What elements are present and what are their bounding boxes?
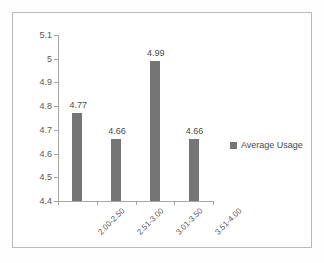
y-axis-tick <box>54 35 58 36</box>
legend-swatch-icon <box>230 142 237 149</box>
bar-data-label: 4.66 <box>108 127 126 136</box>
x-axis-tick <box>174 201 175 205</box>
y-axis-tick <box>54 82 58 83</box>
y-axis-tick-label: 4.8 <box>39 102 52 111</box>
chart-legend: Average Usage <box>230 141 303 150</box>
y-axis-tick <box>54 130 58 131</box>
x-axis-category-label: 3.51-4.00 <box>214 207 244 237</box>
y-axis-tick <box>54 106 58 107</box>
x-axis-category-label: 2.00-2.50 <box>97 207 127 237</box>
y-axis-line <box>58 35 59 201</box>
x-axis-category-label: 2.51-3.00 <box>136 207 166 237</box>
x-axis-tick <box>213 201 214 205</box>
bar-data-label: 4.66 <box>186 127 204 136</box>
bar <box>189 139 199 201</box>
bar <box>111 139 121 201</box>
bar <box>72 113 82 201</box>
y-axis-tick-label: 5 <box>47 54 52 63</box>
y-axis-tick <box>54 154 58 155</box>
y-axis-tick <box>54 59 58 60</box>
plot-area: 5.154.94.84.74.64.54.4 4.774.664.994.66 … <box>58 35 213 201</box>
bar <box>150 61 160 201</box>
legend-item-label: Average Usage <box>241 141 303 150</box>
bar-data-label: 4.99 <box>147 49 165 58</box>
chart-frame: 5.154.94.84.74.64.54.4 4.774.664.994.66 … <box>12 12 312 248</box>
y-axis-tick-label: 4.4 <box>39 197 52 206</box>
chart-figure: 5.154.94.84.74.64.54.4 4.774.664.994.66 … <box>0 0 324 263</box>
x-axis-tick <box>58 201 59 205</box>
y-axis-tick <box>54 177 58 178</box>
x-axis-tick <box>136 201 137 205</box>
bar-data-label: 4.77 <box>70 101 88 110</box>
y-axis-tick-label: 5.1 <box>39 31 52 40</box>
x-axis-tick <box>97 201 98 205</box>
y-axis-tick-label: 4.9 <box>39 78 52 87</box>
x-axis-category-label: 3.01-3.50 <box>175 207 205 237</box>
y-axis-tick-label: 4.5 <box>39 173 52 182</box>
y-axis-tick-label: 4.6 <box>39 149 52 158</box>
y-axis-tick-label: 4.7 <box>39 125 52 134</box>
